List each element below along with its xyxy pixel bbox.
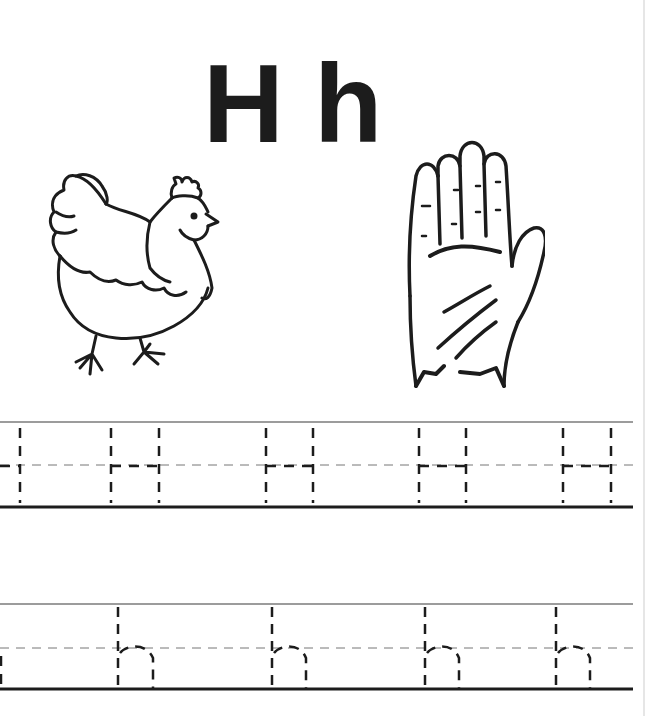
traceable-letter-H — [111, 428, 159, 503]
traceable-letter-H — [266, 428, 313, 503]
traceable-letter-H — [419, 428, 466, 503]
tracing-row-uppercase — [0, 0, 633, 716]
traceable-letter-H — [563, 428, 611, 503]
